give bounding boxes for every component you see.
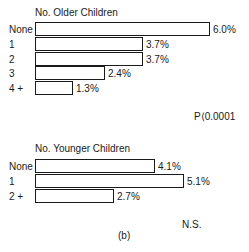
significance-note: P⟨0.0001 [194, 111, 235, 122]
bar-row: None4.1% [0, 159, 249, 174]
value-label: 5.1% [187, 175, 210, 188]
value-label: 6.0% [213, 23, 236, 36]
bar [35, 81, 73, 95]
category-label: 1 [9, 175, 15, 188]
value-label: 3.7% [146, 53, 169, 66]
bar [35, 189, 114, 203]
value-label: 3.7% [146, 38, 169, 51]
bar-row: 4 +1.3% [0, 81, 249, 96]
bar-row: 32.4% [0, 66, 249, 81]
bar-row: None6.0% [0, 22, 249, 37]
significance-note: N.S. [182, 219, 201, 230]
bar-row: 23.7% [0, 52, 249, 67]
value-label: 2.7% [117, 190, 140, 203]
bar-row: 13.7% [0, 37, 249, 52]
value-label: 2.4% [108, 67, 131, 80]
bar [35, 66, 105, 80]
category-label: None [9, 23, 33, 36]
category-label: 4 + [9, 82, 23, 95]
bar [35, 52, 143, 66]
bar-row: 2 +2.7% [0, 189, 249, 204]
value-label: 1.3% [76, 82, 99, 95]
category-label: 3 [9, 67, 15, 80]
bar-row: 15.1% [0, 174, 249, 189]
category-label: None [9, 160, 33, 173]
bar [35, 37, 143, 51]
bar [35, 174, 184, 188]
figure-caption: (b) [118, 230, 130, 241]
category-label: 1 [9, 38, 15, 51]
bar [35, 159, 155, 173]
chart-title: No. Younger Children [35, 143, 130, 154]
chart-title: No. Older Children [35, 7, 118, 18]
category-label: 2 + [9, 190, 23, 203]
value-label: 4.1% [158, 160, 181, 173]
category-label: 2 [9, 53, 15, 66]
bar [35, 22, 210, 36]
